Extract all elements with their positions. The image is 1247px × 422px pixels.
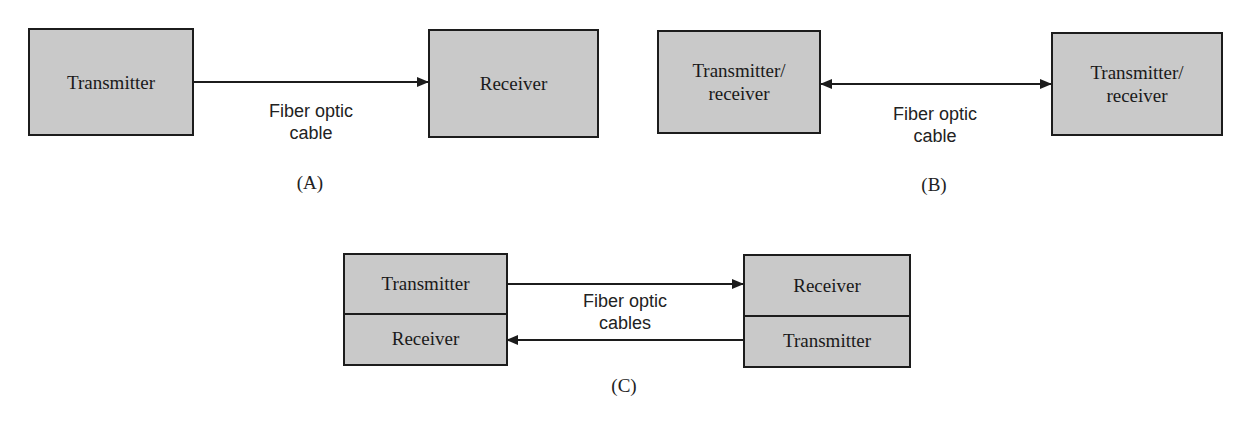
c-link-label: Fiber optic cables [540, 290, 710, 334]
b-right-transceiver-box: Transmitter/ receiver [1051, 32, 1223, 136]
a-link-label: Fiber optic cable [226, 100, 396, 144]
c-left-receiver: Receiver [345, 313, 506, 364]
a-transmitter-box: Transmitter [28, 28, 194, 136]
a-transmitter-label: Transmitter [67, 71, 155, 94]
b-link-label: Fiber optic cable [850, 103, 1020, 147]
b-left-transceiver-box: Transmitter/ receiver [657, 30, 821, 134]
c-caption: (C) [584, 375, 664, 397]
c-right-receiver: Receiver [745, 256, 909, 317]
a-receiver-label: Receiver [480, 72, 548, 95]
c-left-box: Transmitter Receiver [343, 253, 508, 366]
c-right-transmitter: Transmitter [745, 315, 909, 366]
c-right-box: Receiver Transmitter [743, 254, 911, 368]
b-right-transceiver-label: Transmitter/ receiver [1090, 61, 1183, 107]
b-caption: (B) [894, 174, 974, 196]
c-left-transmitter: Transmitter [345, 255, 506, 315]
a-caption: (A) [270, 172, 350, 194]
a-receiver-box: Receiver [428, 29, 599, 138]
b-left-transceiver-label: Transmitter/ receiver [692, 59, 785, 105]
